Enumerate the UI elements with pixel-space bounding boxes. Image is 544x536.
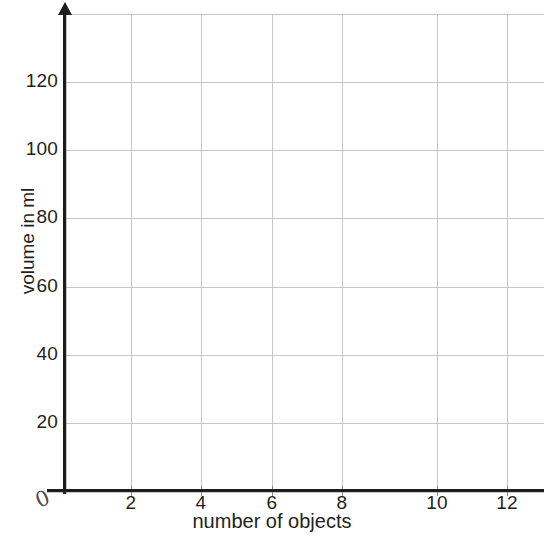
gridline-vertical [272, 14, 273, 491]
plot-area: 20406080100120 24681012 0 volume in ml n… [0, 0, 544, 536]
gridline-horizontal [65, 355, 544, 356]
gridline-horizontal [65, 218, 544, 219]
y-axis-tick-label: 20 [0, 411, 58, 433]
gridline-vertical [201, 14, 202, 491]
gridline-vertical [131, 14, 132, 491]
gridline-vertical [437, 14, 438, 491]
y-axis-arrow-icon [58, 2, 72, 15]
y-axis-title: volume in ml [17, 151, 39, 331]
gridline-horizontal [65, 287, 544, 288]
gridline-horizontal [65, 14, 544, 15]
gridline-horizontal [65, 150, 544, 151]
x-axis-title: number of objects [0, 510, 544, 533]
gridline-horizontal [65, 82, 544, 83]
gridline-vertical [507, 14, 508, 491]
y-axis-line [63, 10, 66, 494]
chart-canvas: 20406080100120 24681012 0 volume in ml n… [0, 0, 544, 536]
gridline-vertical [342, 14, 343, 491]
gridline-horizontal [65, 423, 544, 424]
y-axis-tick-label: 40 [0, 343, 58, 365]
y-axis-tick-label: 120 [0, 70, 58, 92]
